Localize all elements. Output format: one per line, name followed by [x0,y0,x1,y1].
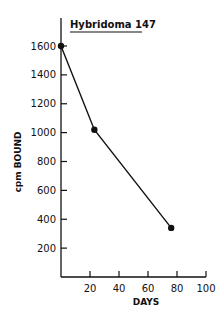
y-axis-label: cpm BOUND [13,131,23,192]
x-axis-label: DAYS [133,297,160,307]
data-point [58,43,64,49]
y-tick-label: 800 [37,156,56,167]
chart: 2004006008001000120014001600 20406080100… [0,0,224,320]
x-tick-label: 40 [113,283,126,294]
data-point [168,225,174,231]
y-tick-label: 1600 [31,41,56,52]
x-tick-label: 80 [171,283,184,294]
y-tick-label: 600 [37,185,56,196]
y-tick-label: 1400 [31,69,56,80]
axes [61,18,206,277]
y-tick-label: 1000 [31,127,56,138]
data-point [91,127,97,133]
x-tick-label: 60 [142,283,155,294]
y-tick-label: 400 [37,214,56,225]
y-tick-label: 200 [37,243,56,254]
x-tick-label: 20 [84,283,97,294]
x-ticks: 20406080100 [84,271,216,294]
data-series [58,43,175,231]
y-tick-label: 1200 [31,98,56,109]
chart-title: Hybridoma 147 [70,19,156,30]
series-line [61,46,171,228]
x-tick-label: 100 [196,283,215,294]
